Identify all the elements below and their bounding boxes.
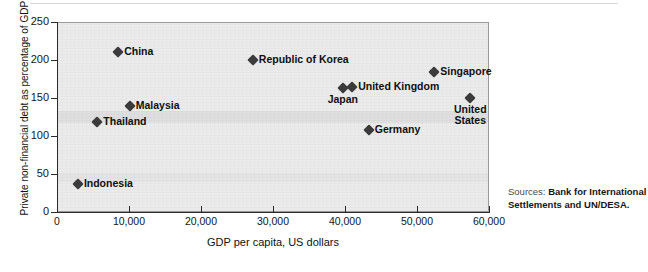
y-axis-tick-mark	[51, 212, 57, 213]
x-axis-tick-mark	[201, 206, 202, 212]
data-point-label: United Kingdom	[358, 81, 439, 92]
data-point-label: China	[124, 46, 153, 57]
y-axis-tick-mark	[51, 60, 57, 61]
data-point-label: Malaysia	[136, 100, 180, 111]
x-axis-tick-label: 0	[22, 216, 92, 227]
x-axis-tick-mark	[273, 206, 274, 212]
data-point-label: Japan	[328, 94, 358, 105]
data-point-label: Thailand	[103, 116, 146, 127]
y-axis-tick-mark	[51, 174, 57, 175]
y-axis-tick-mark	[51, 136, 57, 137]
y-axis-tick-mark	[51, 98, 57, 99]
data-point-label: Germany	[375, 124, 421, 135]
source-prefix: Sources:	[508, 186, 546, 197]
y-axis-tick-mark	[51, 22, 57, 23]
x-axis-tick-label: 60,000	[454, 216, 524, 227]
x-axis-tick-mark	[57, 206, 58, 212]
x-axis-tick-label: 10,000	[94, 216, 164, 227]
page-top-rule	[30, 3, 618, 4]
data-point-label: United States	[454, 104, 487, 127]
x-axis-tick-mark	[417, 206, 418, 212]
x-axis-tick-mark	[129, 206, 130, 212]
data-point-label: Indonesia	[84, 178, 133, 189]
x-axis-tick-label: 40,000	[310, 216, 380, 227]
data-point-label: Republic of Korea	[259, 54, 349, 65]
x-axis-tick-label: 20,000	[166, 216, 236, 227]
scatter-chart-figure: 050100150200250 010,00020,00030,00040,00…	[0, 0, 648, 272]
x-axis-tick-label: 50,000	[382, 216, 452, 227]
x-axis-title: GDP per capita, US dollars	[57, 236, 489, 248]
x-axis-tick-mark	[489, 206, 490, 212]
x-axis-line	[57, 212, 490, 213]
y-axis-line	[57, 22, 58, 213]
data-point-label: Singapore	[440, 66, 491, 77]
source-note: Sources: Bank for International Settleme…	[508, 186, 648, 212]
x-axis-tick-label: 30,000	[238, 216, 308, 227]
x-axis-tick-mark	[345, 206, 346, 212]
y-axis-title: Private non-financial debt as percentage…	[19, 6, 30, 216]
